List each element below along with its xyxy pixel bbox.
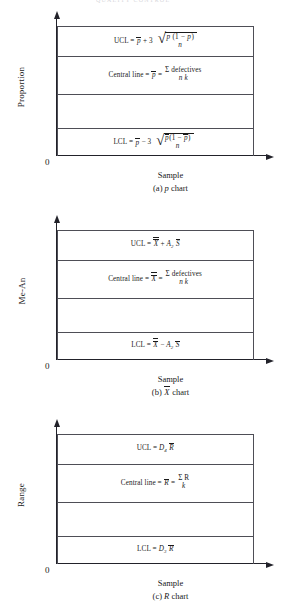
running-head: QUALITY CONTROL bbox=[96, 0, 276, 4]
caption-p: (a) p chart bbox=[0, 183, 305, 193]
y-axis-arrow-icon-r bbox=[54, 419, 60, 427]
p-bar-symbol: p bbox=[151, 72, 156, 79]
y-axis-title-r: Range bbox=[14, 426, 28, 564]
band-lcl-p: LCL = p − 3 √ p(1 − p) n bbox=[58, 129, 253, 157]
x-double-bar-symbol: X bbox=[153, 241, 159, 248]
formula-ucl-p: UCL = p + 3 √ p (1 − p) n bbox=[114, 33, 197, 50]
s-bar-symbol: S bbox=[175, 342, 180, 349]
p-bar-symbol: p bbox=[136, 38, 141, 45]
coefficient-ucl-r: D4 bbox=[159, 444, 167, 452]
y-axis-arrow-icon-p bbox=[54, 11, 60, 19]
origin-label-p: 0 bbox=[45, 157, 50, 167]
r-bar-symbol: R bbox=[169, 445, 175, 452]
p-bar-symbol: p bbox=[135, 140, 140, 147]
band-central-line-xbar: Central line = X = Σ defectives n k bbox=[58, 261, 253, 299]
formula-central-line-xbar: Central line = X = Σ defectives n k bbox=[108, 272, 203, 287]
band-lcl-xbar: LCL = X − A2 S bbox=[58, 333, 253, 361]
formula-ucl-r: UCL = D4 R bbox=[137, 445, 175, 454]
x-axis-arrow-icon-xbar bbox=[266, 358, 274, 364]
radical-lcl-p: √ p(1 − p) n bbox=[156, 133, 193, 150]
plot-area-xbar: UCL = X + A2 S Central line = X = Σ defe… bbox=[56, 222, 274, 360]
coefficient-lcl-xbar: A2 bbox=[166, 341, 173, 349]
x-double-bar-symbol: X bbox=[151, 276, 157, 283]
control-band-stack-xbar: UCL = X + A2 S Central line = X = Σ defe… bbox=[57, 230, 254, 360]
radical-sign-icon: √ bbox=[158, 31, 166, 48]
s-bar-symbol: S bbox=[176, 241, 181, 248]
r-bar-symbol: R bbox=[168, 546, 174, 553]
caption-r: (c) R chart bbox=[0, 591, 305, 601]
y-axis-title-xbar: Me-An bbox=[14, 222, 28, 360]
origin-label-r: 0 bbox=[45, 565, 50, 575]
control-band-stack-p: UCL = p + 3 √ p (1 − p) n bbox=[57, 26, 254, 156]
fraction-central-line-xbar: Σ defectives n k bbox=[166, 271, 202, 286]
band-lcl-r: LCL = D3 R bbox=[58, 537, 253, 565]
plot-area-r: UCL = D4 R Central line = R = Σ R k bbox=[56, 426, 274, 564]
fraction-central-line-p: Σ defectives n k bbox=[165, 67, 201, 82]
fraction-central-line-r: Σ R k bbox=[178, 475, 189, 490]
band-empty-xbar bbox=[58, 299, 253, 333]
formula-lcl-xbar: LCL = X − A2 S bbox=[131, 342, 180, 351]
plot-area-p: UCL = p + 3 √ p (1 − p) n bbox=[56, 18, 274, 156]
x-axis-arrow-icon-p bbox=[266, 154, 274, 160]
band-central-line-r: Central line = R = Σ R k bbox=[58, 465, 253, 503]
band-empty-r bbox=[58, 503, 253, 537]
radical-denominator-lcl-p: n bbox=[176, 143, 180, 151]
band-ucl-xbar: UCL = X + A2 S bbox=[58, 231, 253, 261]
band-ucl-p: UCL = p + 3 √ p (1 − p) n bbox=[58, 27, 253, 57]
control-band-stack-r: UCL = D4 R Central line = R = Σ R k bbox=[57, 434, 254, 564]
radical-denominator-ucl-p: n bbox=[178, 42, 182, 50]
formula-lcl-p: LCL = p − 3 √ p(1 − p) n bbox=[113, 134, 193, 151]
x-axis-title-p: Sample bbox=[0, 170, 305, 180]
formula-ucl-xbar: UCL = X + A2 S bbox=[131, 241, 181, 250]
x-axis-title-xbar: Sample bbox=[0, 374, 305, 384]
x-axis-title-r: Sample bbox=[0, 578, 305, 588]
formula-central-line-r: Central line = R = Σ R k bbox=[121, 476, 190, 491]
origin-label-xbar: 0 bbox=[45, 361, 50, 371]
band-empty-p bbox=[58, 95, 253, 129]
formula-central-line-p: Central line = p = Σ defectives n k bbox=[109, 68, 203, 83]
band-ucl-r: UCL = D4 R bbox=[58, 435, 253, 465]
y-axis-arrow-icon-xbar bbox=[54, 215, 60, 223]
band-central-line-p: Central line = p = Σ defectives n k bbox=[58, 57, 253, 95]
x-double-bar-symbol: X bbox=[153, 342, 159, 349]
r-bar-symbol: R bbox=[164, 480, 170, 487]
y-axis-title-p: Proportion bbox=[14, 18, 28, 156]
radical-sign-icon: √ bbox=[156, 133, 164, 150]
coefficient-ucl-xbar: A2 bbox=[167, 240, 174, 248]
caption-xbar: (b) X chart bbox=[0, 387, 305, 397]
coefficient-lcl-r: D3 bbox=[159, 545, 167, 553]
formula-lcl-r: LCL = D3 R bbox=[137, 546, 174, 555]
x-axis-arrow-icon-r bbox=[266, 562, 274, 568]
radical-ucl-p: √ p (1 − p) n bbox=[158, 32, 197, 49]
